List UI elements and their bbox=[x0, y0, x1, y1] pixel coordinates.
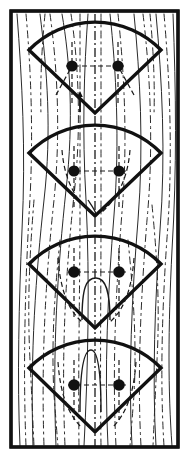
fan-4-dot-right bbox=[113, 379, 125, 391]
fan-4-dot-left bbox=[68, 379, 80, 391]
fan-1-dot-right bbox=[112, 60, 123, 71]
fan-1-dot-left bbox=[66, 60, 77, 71]
fan-3-dot-right bbox=[113, 266, 125, 278]
fan-3-dot-left bbox=[68, 266, 80, 278]
fan-2-dot-right bbox=[113, 165, 124, 176]
figure-root: Sector fan pattern over striated backgro… bbox=[0, 0, 193, 469]
fan-2-dot-left bbox=[68, 165, 79, 176]
sector-fan-figure bbox=[0, 0, 193, 469]
